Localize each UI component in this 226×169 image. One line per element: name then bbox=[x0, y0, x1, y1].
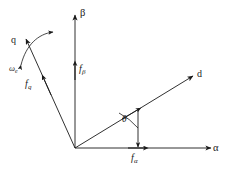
f-alpha-subscript: α bbox=[134, 157, 138, 165]
theta-angle-label: θ bbox=[122, 115, 127, 125]
omega-rotation-arc bbox=[21, 32, 53, 65]
f-q-component-arrow bbox=[43, 77, 51, 95]
beta-axis-label: β bbox=[80, 8, 85, 19]
f-q-label: fq bbox=[25, 79, 31, 91]
f-q-subscript: q bbox=[28, 83, 32, 91]
omega-subscript: e bbox=[15, 68, 18, 74]
alpha-axis-label: α bbox=[213, 143, 219, 154]
f-beta-label: fβ bbox=[79, 64, 85, 76]
f-alpha-label: fα bbox=[131, 153, 138, 165]
q-axis-label: q bbox=[11, 35, 16, 45]
omega-e-label: ωe bbox=[9, 64, 18, 74]
vector-diagram-figure: β α d q fβ fα fq ωe θ bbox=[0, 0, 226, 169]
d-axis-label: d bbox=[197, 69, 202, 79]
vector-diagram-canvas bbox=[0, 0, 226, 169]
f-beta-subscript: β bbox=[82, 68, 86, 76]
